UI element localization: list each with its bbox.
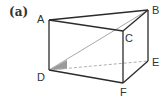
prism-diagram: (a) A B C D E F xyxy=(0,0,168,100)
vertex-label-d: D xyxy=(37,71,45,83)
vertex-label-b: B xyxy=(152,4,159,16)
figure-caption: (a) xyxy=(9,5,28,19)
vertex-label-e: E xyxy=(152,56,159,68)
edge-bc xyxy=(123,10,148,31)
edge-fe xyxy=(123,61,148,83)
vertex-label-a: A xyxy=(37,13,45,25)
vertex-label-f: F xyxy=(120,86,127,98)
edge-ac xyxy=(49,20,123,31)
vertex-label-c: C xyxy=(125,32,133,44)
solid-edges xyxy=(49,10,148,83)
edge-df xyxy=(49,70,123,83)
